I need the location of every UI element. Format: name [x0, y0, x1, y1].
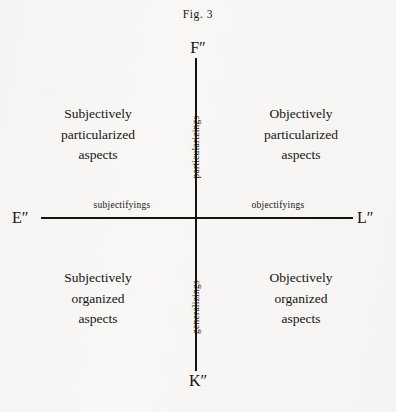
axis-direction-label-subjectifyings: subjectifyings	[70, 200, 174, 210]
axis-endpoint-label-k: K″	[0, 373, 396, 389]
quadrant-label-objectively-organized: Objectively organized aspects	[235, 268, 367, 330]
axis-endpoint-label-e: E″	[12, 210, 28, 226]
quadrant-label-subjectively-organized: Subjectively organized aspects	[32, 268, 164, 330]
figure-diagram: Fig. 3 F″ K″ E″ L″ subjectifyings object…	[0, 0, 396, 412]
axis-direction-label-objectifyings: objectifyings	[228, 200, 328, 210]
quadrant-label-objectively-particularized: Objectively particularized aspects	[235, 104, 367, 166]
axis-direction-label-particularizings: particularizings	[191, 99, 201, 195]
axis-endpoint-label-f: F″	[0, 40, 396, 56]
quadrant-label-subjectively-particularized: Subjectively particularized aspects	[32, 104, 164, 166]
horizontal-axis-line	[41, 217, 353, 219]
axis-endpoint-label-l: L″	[357, 210, 373, 226]
figure-caption: Fig. 3	[0, 8, 396, 20]
axis-direction-label-generalizings: generalizings	[191, 263, 201, 351]
